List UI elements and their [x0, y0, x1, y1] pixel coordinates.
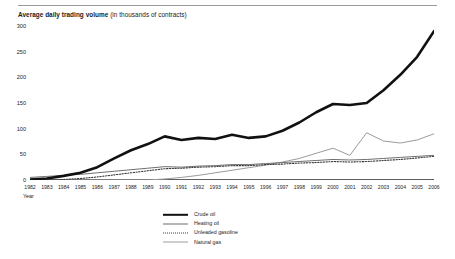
series-line-heating-oil [30, 155, 434, 177]
legend-swatch-icon [163, 220, 188, 227]
x-axis-tick: 2005 [411, 184, 422, 190]
x-axis-tick: 1983 [41, 184, 52, 190]
x-axis-tick: 1988 [125, 184, 136, 190]
x-axis-tick: 1989 [142, 184, 153, 190]
x-axis-tick: 1993 [209, 184, 220, 190]
legend-item-label: Crude oil [194, 212, 215, 217]
legend-item: Heating oil [163, 219, 238, 228]
y-axis-tick: 200 [8, 74, 26, 80]
series-line-natural-gas [30, 133, 434, 180]
chart-legend: Crude oilHeating oilUnleaded gasolineNat… [163, 210, 238, 247]
x-axis-tick: 1992 [193, 184, 204, 190]
legend-item-label: Natural gas [194, 240, 221, 245]
legend-item: Unleaded gasoline [163, 228, 238, 237]
legend-swatch-icon [163, 229, 188, 236]
legend-item-label: Unleaded gasoline [194, 230, 238, 235]
y-axis-tick: 150 [8, 100, 26, 106]
x-axis-tick: 2002 [361, 184, 372, 190]
plot-area [30, 26, 434, 180]
x-axis-tick: 1991 [176, 184, 187, 190]
x-axis-tick: 2006 [428, 184, 439, 190]
x-axis-tick: 1985 [75, 184, 86, 190]
chart-title: Average daily trading volume (in thousan… [18, 11, 187, 18]
x-axis-tick: 1987 [108, 184, 119, 190]
x-axis-tick: 1984 [58, 184, 69, 190]
y-axis-tick: 300 [8, 23, 26, 29]
x-axis-tick: 1999 [310, 184, 321, 190]
x-axis-tick: 1996 [260, 184, 271, 190]
legend-item: Crude oil [163, 210, 238, 219]
x-axis-tick: 1994 [226, 184, 237, 190]
series-line-crude-oil [30, 31, 434, 179]
chart-canvas [30, 26, 434, 180]
x-axis-tick: 2004 [395, 184, 406, 190]
x-axis-title: Year [23, 193, 34, 199]
x-axis-tick: 1986 [92, 184, 103, 190]
x-axis-tick: 1982 [24, 184, 35, 190]
x-axis-tick: 2003 [378, 184, 389, 190]
legend-item-label: Heating oil [194, 221, 219, 226]
top-divider [18, 5, 437, 6]
y-axis-tick: 250 [8, 49, 26, 55]
legend-swatch-icon [163, 211, 188, 218]
x-axis-tick: 1997 [277, 184, 288, 190]
y-axis-tick: 0 [8, 177, 26, 183]
legend-item: Natural gas [163, 238, 238, 247]
x-axis-tick: 1995 [243, 184, 254, 190]
chart-page: Average daily trading volume (in thousan… [0, 0, 455, 259]
x-axis-tick: 1990 [159, 184, 170, 190]
chart-title-subtitle: (in thousands of contracts) [108, 11, 186, 18]
chart-title-main: Average daily trading volume [18, 11, 108, 18]
x-axis-tick: 2000 [327, 184, 338, 190]
x-axis-tick: 2001 [344, 184, 355, 190]
y-axis-tick: 50 [8, 151, 26, 157]
y-axis-tick: 100 [8, 126, 26, 132]
legend-swatch-icon [163, 239, 188, 246]
x-axis-tick: 1998 [294, 184, 305, 190]
